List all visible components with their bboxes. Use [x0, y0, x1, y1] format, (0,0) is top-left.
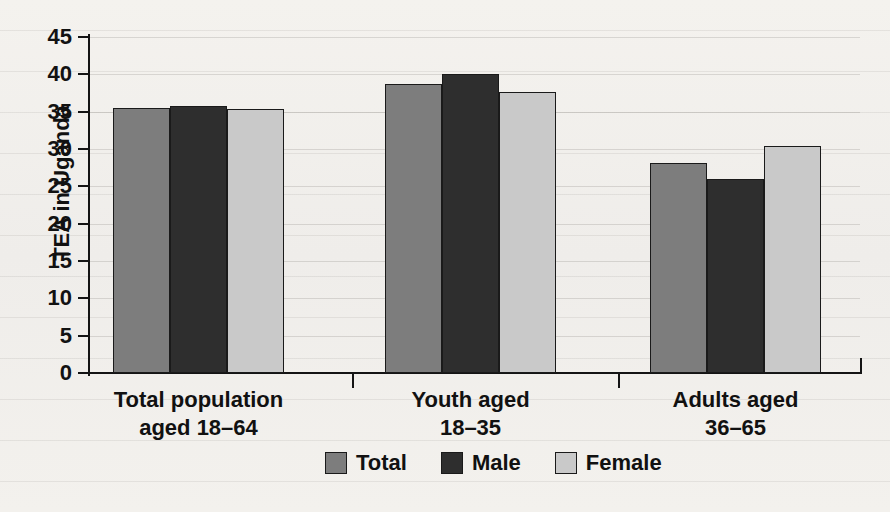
- y-axis-title: TEA in Uganda: [49, 33, 75, 333]
- chart-legend: TotalMaleFemale: [325, 452, 662, 474]
- bar-total-group-2: [385, 84, 442, 373]
- bar-male-group-2: [442, 74, 499, 373]
- legend-item-female[interactable]: Female: [555, 452, 662, 474]
- y-axis-tick-15: [78, 260, 88, 262]
- bar-male-group-1: [170, 106, 227, 373]
- bar-total-group-1: [113, 108, 170, 373]
- y-axis-tick-10: [78, 297, 88, 299]
- legend-item-male[interactable]: Male: [441, 452, 521, 474]
- legend-swatch-female-icon: [555, 452, 577, 474]
- bar-female-group-2: [499, 92, 556, 373]
- bar-male-group-3: [707, 179, 764, 373]
- legend-label-female: Female: [586, 452, 662, 474]
- y-axis-tick-label-0: 0: [12, 362, 72, 384]
- y-axis-tick-0: [78, 372, 88, 374]
- bar-chart-figure: 454035302520151050 TEA in Uganda Total p…: [0, 0, 890, 512]
- y-axis-tick-40: [78, 73, 88, 75]
- legend-swatch-total-icon: [325, 452, 347, 474]
- y-axis-tick-25: [78, 185, 88, 187]
- legend-swatch-male-icon: [441, 452, 463, 474]
- bar-female-group-1: [227, 109, 284, 373]
- legend-label-male: Male: [472, 452, 521, 474]
- legend-label-total: Total: [356, 452, 407, 474]
- category-label-1: Total populationaged 18–64: [59, 386, 339, 441]
- x-axis-right-cap: [860, 358, 862, 374]
- y-axis-tick-45: [78, 36, 88, 38]
- category-label-line2: 36–65: [596, 414, 876, 442]
- plot-area: [88, 37, 860, 373]
- y-axis-tick-20: [78, 223, 88, 225]
- category-label-line1: Adults aged: [673, 387, 799, 412]
- y-axis-tick-35: [78, 111, 88, 113]
- category-label-line2: aged 18–64: [59, 414, 339, 442]
- bar-total-group-3: [650, 163, 707, 373]
- category-label-line1: Total population: [114, 387, 283, 412]
- bar-female-group-3: [764, 146, 821, 373]
- category-label-3: Adults aged36–65: [596, 386, 876, 441]
- y-axis-tick-30: [78, 148, 88, 150]
- category-label-line2: 18–35: [331, 414, 611, 442]
- category-label-2: Youth aged18–35: [331, 386, 611, 441]
- legend-item-total[interactable]: Total: [325, 452, 407, 474]
- category-label-line1: Youth aged: [411, 387, 529, 412]
- y-axis-tick-5: [78, 335, 88, 337]
